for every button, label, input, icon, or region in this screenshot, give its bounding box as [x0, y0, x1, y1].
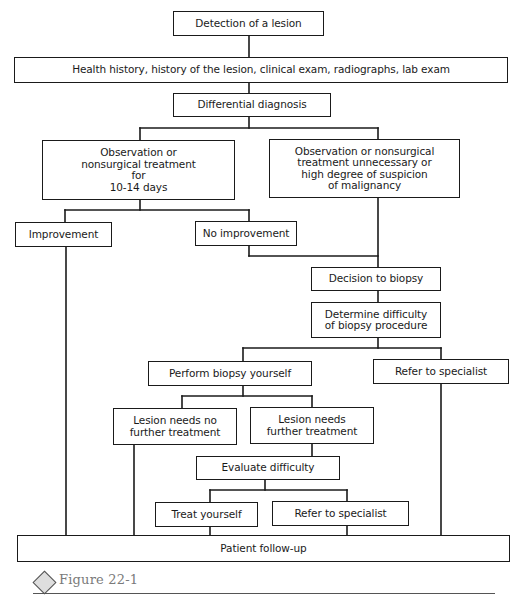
caption-rule: [33, 593, 495, 594]
node-observation-treatment: Observation or nonsurgical treatment for…: [42, 140, 235, 200]
node-evaluate-difficulty: Evaluate difficulty: [196, 456, 340, 480]
node-detection-of-lesion: Detection of a lesion: [173, 11, 324, 36]
node-improvement: Improvement: [15, 222, 112, 247]
node-determine-difficulty: Determine difficulty of biopsy procedure: [311, 302, 441, 338]
node-perform-biopsy-yourself: Perform biopsy yourself: [148, 361, 312, 386]
node-differential-diagnosis: Differential diagnosis: [173, 93, 331, 117]
flowchart-figure: Detection of a lesion Health history, hi…: [0, 0, 522, 606]
node-no-improvement: No improvement: [195, 221, 297, 246]
node-refer-to-specialist-biopsy: Refer to specialist: [373, 359, 509, 384]
figure-label: Figure 22-1: [59, 572, 138, 587]
node-decision-to-biopsy: Decision to biopsy: [311, 267, 441, 291]
diamond-icon: [32, 570, 56, 594]
node-observation-unnecessary: Observation or nonsurgical treatment unn…: [269, 139, 460, 198]
node-lesion-needs-no-treatment: Lesion needs no further treatment: [113, 408, 237, 445]
connector-lines: [0, 0, 522, 606]
node-health-history: Health history, history of the lesion, c…: [14, 57, 508, 83]
node-lesion-needs-treatment: Lesion needs further treatment: [250, 407, 374, 444]
node-patient-follow-up: Patient follow-up: [17, 535, 510, 562]
node-refer-to-specialist-treatment: Refer to specialist: [272, 501, 409, 526]
figure-caption: Figure 22-1: [20, 564, 500, 600]
node-treat-yourself: Treat yourself: [155, 502, 258, 527]
